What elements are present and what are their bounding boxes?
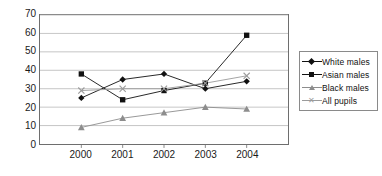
y-axis-tick-label: 10 [2, 121, 36, 131]
y-axis-tick-label: 50 [2, 46, 36, 56]
cross-marker-icon: ✕ [302, 95, 322, 106]
y-axis-tick-label: 20 [2, 103, 36, 113]
legend-item-label: Black males [322, 83, 369, 93]
legend-item-diamond[interactable]: White males [302, 55, 375, 68]
triangle-marker-icon [302, 82, 322, 93]
x-axis: 20002001200220032004 [39, 149, 289, 165]
legend-item-square[interactable]: Asian males [302, 68, 375, 81]
legend-item-triangle[interactable]: Black males [302, 81, 375, 94]
y-axis: 010203040506070 [0, 14, 36, 145]
x-axis-tick-label: 2002 [144, 149, 184, 161]
series-lines [40, 15, 288, 144]
chart-legend: White malesAsian malesBlack males✕All pu… [299, 51, 378, 111]
x-axis-tick-label: 2003 [186, 149, 226, 161]
plot-area [39, 14, 289, 145]
y-axis-tick-label: 70 [2, 9, 36, 19]
x-axis-tick-label: 2000 [61, 149, 101, 161]
line-chart: · · · 010203040506070 200020012002200320… [0, 0, 382, 176]
legend-item-label: Asian males [322, 70, 369, 80]
top-clipped-text-strip: · · · [0, 0, 382, 7]
legend-item-cross[interactable]: ✕All pupils [302, 94, 375, 107]
clipped-caption: · · · [8, 0, 22, 2]
y-axis-tick-label: 60 [2, 28, 36, 38]
square-marker-icon [302, 69, 322, 80]
x-axis-tick-label: 2001 [102, 149, 142, 161]
legend-item-label: All pupils [322, 96, 357, 106]
diamond-marker-icon [302, 56, 322, 67]
legend-item-label: White males [322, 57, 370, 67]
x-axis-tick-label: 2004 [227, 149, 267, 161]
y-axis-tick-label: 0 [2, 140, 36, 150]
y-axis-tick-label: 30 [2, 84, 36, 94]
y-axis-tick-label: 40 [2, 65, 36, 75]
